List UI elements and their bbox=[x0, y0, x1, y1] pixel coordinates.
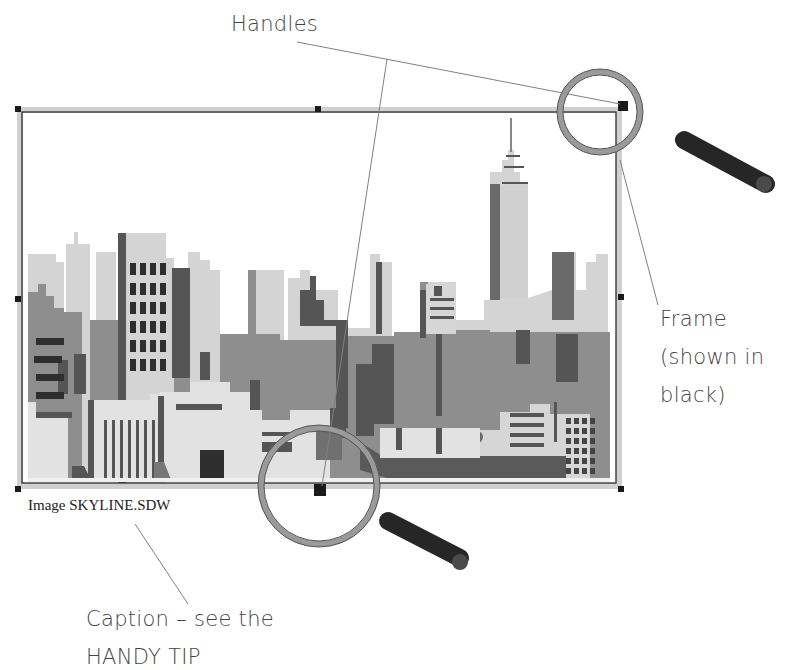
handle-top-left[interactable] bbox=[15, 106, 21, 112]
frame-callout-line3: black) bbox=[660, 376, 764, 414]
handle-middle-right[interactable] bbox=[618, 294, 624, 300]
frame-callout: Frame (shown in black) bbox=[660, 300, 764, 414]
handle-middle-left[interactable] bbox=[15, 296, 21, 302]
caption-callout: Caption – see the HANDY TIP bbox=[86, 600, 274, 670]
handle-bottom-left[interactable] bbox=[15, 486, 21, 492]
frame-callout-line2: (shown in bbox=[660, 338, 764, 376]
frame-callout-line1: Frame bbox=[660, 300, 764, 338]
caption-callout-line2: HANDY TIP bbox=[86, 638, 274, 670]
handle-top-middle[interactable] bbox=[315, 106, 321, 112]
handle-top-right[interactable] bbox=[618, 101, 628, 111]
image-caption: Image SKYLINE.SDW bbox=[28, 497, 170, 514]
handle-bottom-right[interactable] bbox=[618, 486, 624, 492]
handle-bottom-middle[interactable] bbox=[314, 484, 326, 496]
handles-callout: Handles bbox=[231, 12, 318, 36]
magnifier-top-right-icon bbox=[557, 69, 772, 192]
caption-callout-line1: Caption – see the bbox=[86, 600, 274, 638]
